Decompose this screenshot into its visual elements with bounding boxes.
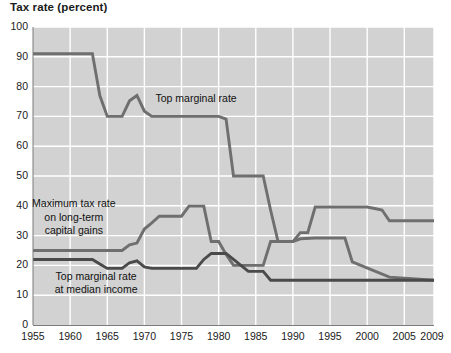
x-tick-label: 1970 [127, 330, 161, 342]
y-tick-label: 70 [2, 109, 28, 121]
annotation-line: at median income [41, 283, 151, 297]
y-tick-label: 60 [2, 139, 28, 151]
plot-area [0, 0, 451, 353]
x-tick-label: 1975 [165, 330, 199, 342]
y-tick-label: 0 [2, 318, 28, 330]
y-tick-label: 50 [2, 169, 28, 181]
y-tick-label: 100 [2, 20, 28, 32]
y-tick-label: 20 [2, 258, 28, 270]
y-tick-label: 80 [2, 80, 28, 92]
x-tick-label: 2009 [415, 330, 449, 342]
annotation-top-marginal-median: Top marginal rate at median income [41, 270, 151, 297]
x-tick-label: 1980 [202, 330, 236, 342]
y-tick-label: 10 [2, 288, 28, 300]
annotation-max-capital-gains: Maximum tax rate on long-term capital ga… [19, 197, 129, 238]
x-tick-label: 1965 [90, 330, 124, 342]
x-tick-label: 1990 [276, 330, 310, 342]
annotation-top-marginal-rate: Top marginal rate [156, 92, 237, 106]
annotation-line: Maximum tax rate [19, 197, 129, 211]
x-tick-label: 1995 [313, 330, 347, 342]
x-tick-label: 1955 [16, 330, 50, 342]
annotation-line: Top marginal rate [156, 92, 237, 106]
annotation-line: Top marginal rate [41, 270, 151, 284]
annotation-line: on long-term [19, 211, 129, 225]
y-tick-label: 90 [2, 50, 28, 62]
annotation-line: capital gains [19, 224, 129, 238]
x-tick-label: 1960 [53, 330, 87, 342]
x-tick-label: 2000 [350, 330, 384, 342]
tax-rate-chart: Tax rate (percent) 010203040506070809010… [0, 0, 451, 353]
x-tick-label: 1985 [239, 330, 273, 342]
